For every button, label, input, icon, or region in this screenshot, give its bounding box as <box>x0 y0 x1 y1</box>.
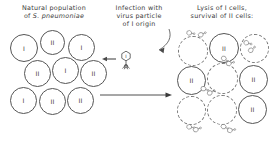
caption-leader-line <box>129 28 173 62</box>
bacterial-cell: I <box>52 57 79 84</box>
cell-type-label: II <box>250 106 254 113</box>
cell-type-label: II <box>35 70 39 77</box>
cell-type-label: I <box>22 97 24 104</box>
bacterial-cell: II <box>80 60 107 87</box>
cell-type-label: II <box>91 70 95 77</box>
right-cell-population: IIIIIIII <box>176 30 270 142</box>
released-virus-particle <box>198 31 207 39</box>
cell-type-label: I <box>23 45 25 52</box>
left-panel-caption: Natural population of S. pneumoniae <box>6 5 102 21</box>
released-virus-particle <box>207 89 216 97</box>
bacterial-cell: II <box>238 95 267 124</box>
left-cell-population: IIIIIIIIIIIIII <box>4 32 100 137</box>
species-name: S. pneumoniae <box>33 12 84 20</box>
process-arrow <box>99 91 173 99</box>
released-virus-particle <box>227 127 236 135</box>
cell-type-label: I <box>64 67 66 74</box>
released-virus-particle <box>248 46 257 54</box>
released-virus-particle <box>226 60 235 68</box>
bacterial-cell: I <box>68 34 95 61</box>
bacterial-cell: I <box>10 34 38 62</box>
bacterial-cell: II <box>39 88 66 115</box>
bacterial-cell <box>178 36 208 66</box>
bacterial-cell: II <box>24 60 51 87</box>
bacterial-cell: II <box>239 65 268 94</box>
released-virus-particle <box>186 30 195 38</box>
right-caption-line2: survival of II cells: <box>176 13 268 21</box>
middle-panel-caption: Infection with virus particle of I origi… <box>100 5 178 28</box>
left-caption-line2: of S. pneumoniae <box>6 13 102 21</box>
cell-type-label: II <box>222 45 226 52</box>
left-caption-prefix: of <box>24 12 31 20</box>
bacterial-cell: II <box>40 30 65 55</box>
cell-type-label: II <box>251 76 255 83</box>
virus-origin-label: I <box>125 54 126 59</box>
virus-particle-icon: I <box>118 50 134 70</box>
bacterial-cell <box>177 96 206 125</box>
cell-type-label: II <box>189 77 193 84</box>
bacterial-cell: II <box>67 87 94 114</box>
figure-canvas: Natural population of S. pneumoniae Infe… <box>0 0 271 146</box>
released-virus-particle <box>193 126 202 134</box>
right-panel-caption: Lysis of I cells, survival of II cells: <box>176 5 268 21</box>
bacterial-cell: I <box>10 87 37 114</box>
bacterial-cell <box>207 95 237 125</box>
cell-type-label: II <box>78 97 82 104</box>
cell-type-label: I <box>80 44 82 51</box>
cell-type-label: II <box>50 98 54 105</box>
cell-type-label: II <box>50 39 54 46</box>
virus-pointer-arrow <box>101 56 117 62</box>
